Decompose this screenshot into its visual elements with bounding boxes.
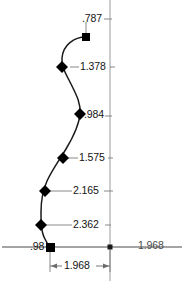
marker-square-bottom xyxy=(46,243,55,252)
arrow-left-icon xyxy=(51,264,57,269)
marker-diamond-2362 xyxy=(35,219,47,231)
marker-diamond-1378 xyxy=(56,61,68,73)
axis-label-right-1968: 1.968 xyxy=(138,240,164,251)
dimension-label-787: .787 xyxy=(82,13,102,24)
dimension-label-1378: 1.378 xyxy=(80,61,106,72)
marker-diamond-1575 xyxy=(57,152,69,164)
dimension-label-984: .984 xyxy=(84,109,104,120)
marker-square-top xyxy=(82,33,90,41)
dimension-label-1575: 1.575 xyxy=(79,152,105,163)
dimension-label-bottom-1968: 1.968 xyxy=(64,260,90,271)
dimension-label-2165: 2.165 xyxy=(73,185,99,196)
origin-dot-icon xyxy=(108,245,113,250)
marker-diamond-2165 xyxy=(39,185,51,197)
dimension-label-2362: 2.362 xyxy=(73,219,99,230)
dimension-label-98: .98 xyxy=(30,241,44,252)
arrow-right-icon xyxy=(103,264,109,269)
